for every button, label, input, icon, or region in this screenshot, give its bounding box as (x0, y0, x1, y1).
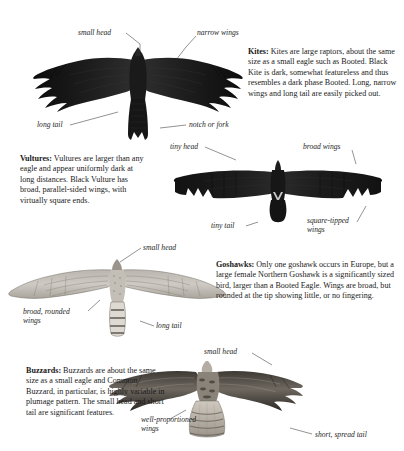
label-vulture-broad-wings: broad wings (303, 142, 340, 151)
label-buzzard-small-head: small head (204, 347, 237, 356)
label-kite-narrow-wings: narrow wings (197, 28, 239, 37)
label-buzzard-short-spread-tail: short, spread tail (315, 430, 367, 439)
goshawk-illustration (8, 258, 226, 340)
vultures-lead: Vultures: (20, 154, 52, 163)
text-block-goshawks: Goshawks: Only one goshawk occurs in Eur… (216, 260, 398, 302)
kites-lead: Kites: (248, 47, 269, 56)
label-vulture-tiny-head: tiny head (170, 142, 198, 151)
label-kite-small-head: small head (78, 28, 111, 37)
text-block-buzzards: Buzzards: Buzzards are about the same si… (26, 366, 168, 418)
label-kite-long-tail: long tail (37, 120, 63, 129)
label-vulture-tiny-tail: tiny tail (211, 221, 234, 230)
kites-body: Kites are large raptors, about the same … (248, 47, 396, 98)
plate-page: small head narrow wings long tail notch … (0, 0, 404, 451)
goshawks-lead: Goshawks: (216, 260, 254, 269)
buzzards-lead: Buzzards: (26, 366, 61, 375)
label-goshawk-long-tail: long tail (156, 321, 182, 330)
label-goshawk-small-head: small head (143, 243, 176, 252)
label-vulture-square-tipped-wings: square-tipped wings (307, 216, 359, 234)
label-kite-notch-or-fork: notch or fork (189, 120, 229, 129)
text-block-vultures: Vultures: Vultures are larger than any e… (20, 154, 148, 206)
text-block-kites: Kites: Kites are large raptors, about th… (248, 47, 398, 99)
label-goshawk-broad-rounded-wings: broad, rounded wings (23, 307, 85, 325)
